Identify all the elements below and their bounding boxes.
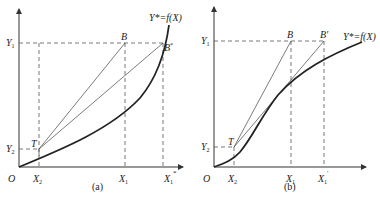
caption-a: (a) [92,181,103,193]
point-T-label-a: T [31,138,38,149]
curve-label-b: Y*=f(X) [343,31,377,43]
y1-label-a: Y1 [6,37,15,49]
y2-label-b: Y2 [201,141,210,153]
point-Bstar-label-a: B* [164,42,173,53]
origin-label-a: O [8,173,15,184]
point-T-label-b: T [228,136,235,147]
x2-label-a: X2 [32,173,42,185]
point-B-label-a: B [121,31,127,42]
panel-b: O Y1 Y2 X2 X1 X1′ B B′ T Y*=f(X) (b) [201,7,377,193]
line-TB-a [39,43,125,149]
x2-label-b: X2 [227,173,237,185]
line-TB-b [234,41,291,147]
line-TBstar-a [39,43,163,149]
diagram-canvas: O Y1 Y2 X2 X1 X1* B B* T Y*=f(X) (a) O Y… [0,0,380,202]
x1prime-label-b: X1′ [317,169,329,185]
y1-label-b: Y1 [201,35,210,47]
curve-b [214,42,362,167]
x1-label-a: X1 [118,173,128,185]
curve-label-a: Y*=f(X) [149,12,183,24]
caption-b: (b) [284,181,296,193]
y2-label-a: Y2 [6,143,15,155]
x1star-label-a: X1* [163,169,177,185]
panel-a: O Y1 Y2 X2 X1 X1* B B* T Y*=f(X) (a) [6,9,183,193]
origin-label-b: O [203,173,210,184]
point-Bprime-label-b: B′ [320,29,329,40]
point-B-label-b: B [287,29,293,40]
